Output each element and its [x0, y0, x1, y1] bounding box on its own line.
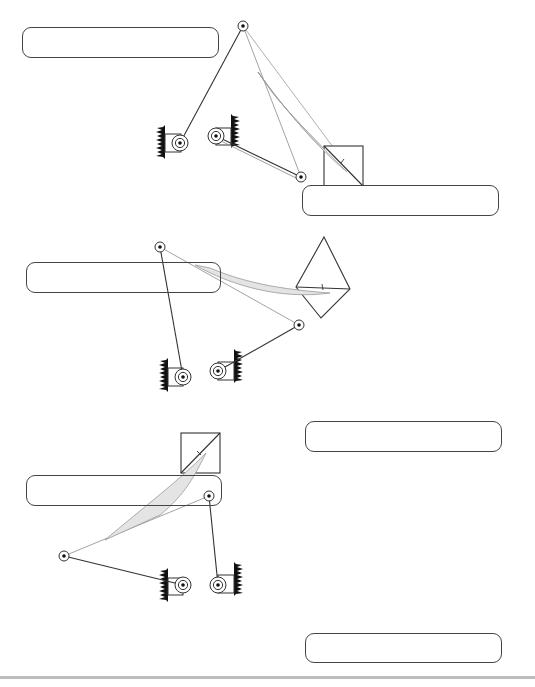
ground-hatch-icon — [159, 568, 168, 602]
linkage-position-3 — [59, 433, 243, 602]
ground-pivot-icon — [172, 135, 188, 151]
label-box-6 — [305, 633, 502, 663]
linkage-position-2 — [155, 237, 350, 392]
footer-caption — [0, 679, 535, 687]
label-box-3 — [26, 262, 221, 293]
joint-pin-icon — [296, 172, 306, 182]
ground-hatch-icon — [234, 562, 243, 596]
label-box-4 — [305, 421, 502, 452]
ground-pivot-icon — [175, 577, 191, 593]
ground-pivot-icon — [208, 128, 224, 144]
joint-pin-icon — [238, 21, 248, 31]
ground-hatch-icon — [231, 114, 240, 148]
ground-pivot-icon — [210, 363, 226, 379]
joint-pin-icon — [155, 242, 165, 252]
joint-pin-icon — [294, 320, 304, 330]
ground-hatch-icon — [159, 358, 168, 392]
label-box-1 — [22, 27, 219, 58]
ground-pivot-icon — [210, 577, 226, 593]
label-box-5 — [26, 475, 222, 506]
joint-pin-icon — [59, 551, 69, 561]
tool-square — [296, 237, 350, 318]
tool-square — [258, 72, 363, 186]
linkage-diagram — [0, 0, 535, 687]
ground-hatch-icon — [234, 349, 243, 383]
label-box-2 — [302, 185, 499, 216]
ground-pivot-icon — [175, 369, 191, 385]
tool-square — [181, 433, 220, 473]
